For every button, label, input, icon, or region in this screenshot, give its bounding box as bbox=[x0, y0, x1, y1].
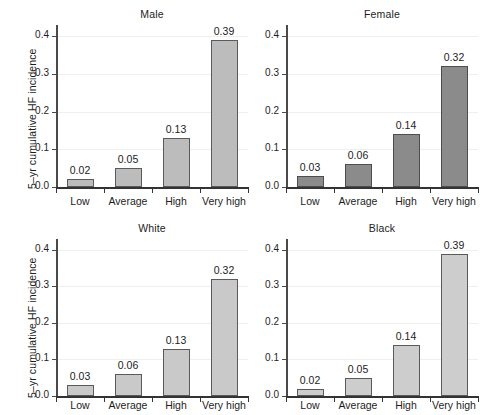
bar-bottom-left-2[interactable] bbox=[163, 349, 190, 396]
bar-value-label: 0.39 bbox=[200, 25, 248, 37]
y-tick-mark bbox=[52, 286, 56, 287]
bar-top-right-3[interactable] bbox=[441, 66, 468, 187]
y-tick-label: 0.3 bbox=[248, 67, 279, 78]
grid-line bbox=[56, 250, 248, 251]
bar-bottom-left-0[interactable] bbox=[67, 385, 94, 396]
bar-top-left-3[interactable] bbox=[211, 40, 238, 187]
x-tick-label: Low bbox=[286, 399, 334, 411]
y-tick-mark bbox=[52, 112, 56, 113]
y-tick-mark bbox=[52, 36, 56, 37]
y-tick-mark bbox=[282, 323, 286, 324]
bar-bottom-right-1[interactable] bbox=[345, 378, 372, 396]
x-tick-label: High bbox=[382, 195, 430, 207]
bar-value-label: 0.39 bbox=[430, 239, 478, 251]
bar-top-right-2[interactable] bbox=[393, 134, 420, 187]
x-tick-mark bbox=[152, 189, 153, 193]
y-tick-mark bbox=[52, 250, 56, 251]
x-tick-label: Low bbox=[56, 399, 104, 411]
x-tick-label: Average bbox=[104, 195, 152, 207]
y-tick-mark bbox=[282, 36, 286, 37]
x-tick-mark bbox=[382, 398, 383, 402]
bar-top-left-1[interactable] bbox=[115, 168, 142, 187]
y-tick-label: 0.3 bbox=[18, 279, 49, 290]
y-tick-mark bbox=[282, 112, 286, 113]
bar-value-label: 0.03 bbox=[56, 370, 104, 382]
y-tick-label: 0.0 bbox=[18, 389, 49, 400]
x-tick-mark bbox=[56, 189, 57, 193]
bar-bottom-left-3[interactable] bbox=[211, 279, 238, 396]
bar-value-label: 0.14 bbox=[382, 330, 430, 342]
y-tick-mark bbox=[282, 74, 286, 75]
x-tick-label: Very high bbox=[430, 195, 478, 207]
y-tick-label: 0.4 bbox=[248, 243, 279, 254]
y-tick-label: 0.4 bbox=[18, 29, 49, 40]
bar-value-label: 0.05 bbox=[104, 153, 152, 165]
y-tick-mark bbox=[52, 323, 56, 324]
bar-bottom-left-1[interactable] bbox=[115, 374, 142, 396]
x-tick-mark bbox=[248, 189, 249, 193]
bar-bottom-right-2[interactable] bbox=[393, 345, 420, 396]
bar-top-right-0[interactable] bbox=[297, 176, 324, 187]
y-tick-mark bbox=[282, 396, 286, 397]
y-tick-label: 0.4 bbox=[18, 243, 49, 254]
y-tick-label: 0.2 bbox=[248, 105, 279, 116]
y-tick-label: 0.1 bbox=[18, 142, 49, 153]
bar-bottom-right-0[interactable] bbox=[297, 389, 324, 396]
x-tick-label: High bbox=[382, 399, 430, 411]
grid-line bbox=[286, 250, 478, 251]
x-tick-label: Low bbox=[56, 195, 104, 207]
y-tick-mark bbox=[52, 187, 56, 188]
x-axis-line-top-right bbox=[286, 187, 479, 189]
y-tick-mark bbox=[52, 396, 56, 397]
x-tick-label: Low bbox=[286, 195, 334, 207]
y-axis-label-bottom-left: 5–yr cumulative HF incidence bbox=[26, 257, 38, 398]
x-tick-label: High bbox=[152, 399, 200, 411]
y-axis-line-bottom-right bbox=[286, 239, 288, 397]
x-tick-mark bbox=[334, 189, 335, 193]
bar-value-label: 0.14 bbox=[382, 119, 430, 131]
x-axis-line-bottom-right bbox=[286, 396, 479, 398]
x-tick-mark bbox=[286, 189, 287, 193]
x-tick-label: Average bbox=[104, 399, 152, 411]
bar-top-left-0[interactable] bbox=[67, 179, 94, 187]
bar-top-right-1[interactable] bbox=[345, 164, 372, 187]
y-tick-mark bbox=[282, 149, 286, 150]
x-axis-line-top-left bbox=[56, 187, 249, 189]
x-axis-line-bottom-left bbox=[56, 396, 249, 398]
y-axis-line-bottom-left bbox=[56, 239, 58, 397]
y-tick-mark bbox=[52, 149, 56, 150]
bar-value-label: 0.13 bbox=[152, 334, 200, 346]
x-tick-mark bbox=[104, 189, 105, 193]
x-tick-mark bbox=[382, 189, 383, 193]
y-tick-label: 0.2 bbox=[248, 316, 279, 327]
x-tick-mark bbox=[478, 189, 479, 193]
x-tick-mark bbox=[478, 398, 479, 402]
y-axis-line-top-left bbox=[56, 25, 58, 188]
y-tick-label: 0.1 bbox=[248, 352, 279, 363]
y-tick-mark bbox=[282, 187, 286, 188]
x-tick-label: Very high bbox=[200, 195, 248, 207]
panel-title-top-left: Male bbox=[56, 8, 248, 20]
bar-value-label: 0.06 bbox=[334, 149, 382, 161]
y-axis-label-top-left: 5–yr cumulative HF incidence bbox=[26, 48, 38, 189]
panel-title-top-right: Female bbox=[286, 8, 478, 20]
y-tick-mark bbox=[282, 250, 286, 251]
x-tick-label: Average bbox=[334, 195, 382, 207]
bar-value-label: 0.02 bbox=[286, 374, 334, 386]
x-tick-mark bbox=[200, 189, 201, 193]
y-tick-label: 0.3 bbox=[248, 279, 279, 290]
panel-title-bottom-left: White bbox=[56, 222, 248, 234]
bar-bottom-right-3[interactable] bbox=[441, 254, 468, 396]
x-tick-mark bbox=[152, 398, 153, 402]
grid-line bbox=[286, 36, 478, 37]
bar-value-label: 0.05 bbox=[334, 363, 382, 375]
x-tick-label: Average bbox=[334, 399, 382, 411]
y-tick-label: 0.1 bbox=[18, 352, 49, 363]
bar-top-left-2[interactable] bbox=[163, 138, 190, 187]
bar-value-label: 0.32 bbox=[200, 264, 248, 276]
x-tick-mark bbox=[200, 398, 201, 402]
x-tick-mark bbox=[104, 398, 105, 402]
grid-line bbox=[56, 36, 248, 37]
y-tick-mark bbox=[282, 286, 286, 287]
bar-value-label: 0.03 bbox=[286, 161, 334, 173]
